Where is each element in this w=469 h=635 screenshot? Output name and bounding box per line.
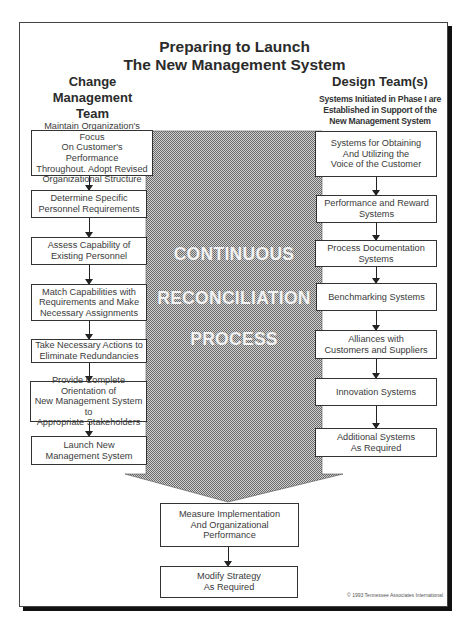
box-text: Performance and Reward [324, 198, 429, 209]
box-text: Innovation Systems [336, 387, 416, 398]
box-text: Customers and Suppliers [324, 345, 427, 356]
arrow-down-icon [376, 359, 377, 378]
box-text: Provide Complete Orientation of [34, 375, 143, 396]
right-step-6-innovation[interactable]: Innovation Systems [315, 378, 437, 406]
box-text: Systems for Obtaining [331, 138, 421, 149]
box-text: Determine Specific [38, 193, 139, 204]
arrow-down-icon [89, 265, 90, 284]
modify-strategy-box[interactable]: Modify Strategy As Required [160, 566, 298, 598]
arrow-down-icon [89, 321, 90, 339]
box-text: On Customer's Performance [35, 142, 149, 163]
right-step-2-performance-reward[interactable]: Performance and Reward Systems [316, 195, 437, 223]
box-text: Additional Systems [337, 432, 415, 443]
box-text: Launch New [46, 440, 133, 451]
right-step-4-benchmarking[interactable]: Benchmarking Systems [316, 283, 437, 311]
box-text: Requirements and Make [39, 297, 139, 308]
box-text: Existing Personnel [48, 251, 131, 262]
left-step-3-assess-capability[interactable]: Assess Capability of Existing Personnel [31, 237, 147, 265]
box-text: Benchmarking Systems [328, 292, 425, 303]
box-text: Assess Capability of [48, 240, 131, 251]
box-text: Alliances with [324, 334, 427, 345]
box-text: Eliminate Redundancies [35, 351, 143, 362]
box-text: And Utilizing the [331, 149, 421, 160]
arrow-down-icon [376, 267, 377, 283]
left-step-5-eliminate-redundancies[interactable]: Take Necessary Actions to Eliminate Redu… [31, 339, 147, 363]
box-text: Management System [46, 451, 133, 462]
right-step-7-additional-systems[interactable]: Additional Systems As Required [315, 428, 437, 457]
left-step-1-maintain-focus[interactable]: Maintain Organization's Focus On Custome… [31, 130, 153, 176]
left-step-4-match-capabilities[interactable]: Match Capabilities with Requirements and… [31, 284, 147, 321]
box-text: And Organizational [179, 520, 280, 531]
center-word-reconciliation: RECONCILIATION [146, 288, 322, 309]
box-text: Necessary Assignments [39, 308, 139, 319]
box-text: Voice of the Customer [331, 159, 421, 170]
box-text: Modify Strategy [197, 571, 261, 582]
box-text: Maintain Organization's Focus [35, 121, 149, 142]
arrow-down-icon [376, 223, 377, 240]
center-word-continuous: CONTINUOUS [146, 244, 322, 265]
left-step-6-provide-orientation[interactable]: Provide Complete Orientation of New Mana… [30, 381, 147, 422]
arrow-down-icon [376, 177, 377, 195]
box-text: As Required [337, 443, 415, 454]
box-text: Systems [324, 209, 429, 220]
right-step-3-process-documentation[interactable]: Process Documentation Systems [315, 240, 437, 267]
box-text: Match Capabilities with [39, 287, 139, 298]
box-text: Measure Implementation [179, 509, 280, 520]
right-step-5-alliances[interactable]: Alliances with Customers and Suppliers [315, 330, 437, 359]
arrow-down-icon [89, 218, 90, 237]
left-step-2-personnel-requirements[interactable]: Determine Specific Personnel Requirement… [31, 190, 147, 218]
center-word-process: PROCESS [146, 329, 322, 350]
arrow-down-icon [228, 547, 229, 566]
arrow-down-icon [376, 311, 377, 330]
box-text: Appropriate Stakeholders [34, 417, 143, 428]
left-step-7-launch-system[interactable]: Launch New Management System [31, 436, 147, 465]
right-step-1-voice-of-customer[interactable]: Systems for Obtaining And Utilizing the … [315, 131, 437, 177]
box-text: New Management System to [34, 396, 143, 417]
arrow-down-icon [376, 406, 377, 428]
box-text: As Required [197, 582, 261, 593]
box-text: Performance [179, 530, 280, 541]
box-text: Organizational Structure [35, 174, 149, 185]
measure-performance-box[interactable]: Measure Implementation And Organizationa… [160, 503, 299, 547]
box-text: Throughout. Adopt Revised [35, 164, 149, 175]
box-text: Personnel Requirements [38, 204, 139, 215]
box-text: Process Documentation Systems [319, 243, 433, 264]
box-text: Take Necessary Actions to [35, 340, 143, 351]
